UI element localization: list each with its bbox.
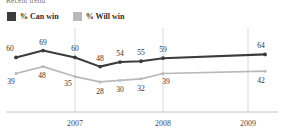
data-point[interactable] xyxy=(161,56,165,60)
data-label: 35 xyxy=(64,79,72,88)
data-point[interactable] xyxy=(119,79,122,82)
data-label: 28 xyxy=(96,87,104,96)
data-label: 54 xyxy=(116,49,124,58)
legend-swatch-will-win xyxy=(73,12,82,21)
data-point[interactable] xyxy=(264,70,267,73)
x-axis-tick-labels: 200720082009 xyxy=(0,119,281,135)
data-point[interactable] xyxy=(118,60,122,64)
data-point[interactable] xyxy=(162,72,165,75)
legend-swatch-can-win xyxy=(7,12,16,21)
data-label: 64 xyxy=(257,41,265,50)
data-point[interactable] xyxy=(263,53,267,57)
data-label: 69 xyxy=(39,38,47,47)
data-point[interactable] xyxy=(98,65,102,69)
data-point[interactable] xyxy=(41,49,45,53)
data-label: 60 xyxy=(6,44,14,53)
legend-item-will-win[interactable]: % Will win xyxy=(73,12,125,21)
data-point[interactable] xyxy=(73,56,77,60)
data-point[interactable] xyxy=(139,59,143,63)
legend-label-can-win: % Can win xyxy=(20,12,59,21)
chart-plot-area: 39483528303239426069604854555964 xyxy=(0,26,281,118)
data-label: 39 xyxy=(162,77,170,86)
data-label: 39 xyxy=(7,77,15,86)
legend-label-will-win: % Will win xyxy=(86,12,125,21)
chart-legend: % Can win % Will win xyxy=(7,10,125,22)
data-label: 32 xyxy=(137,84,145,93)
page-title: Recent trend xyxy=(6,0,45,5)
data-point[interactable] xyxy=(15,72,18,75)
data-point[interactable] xyxy=(74,75,77,78)
legend-item-can-win[interactable]: % Can win xyxy=(7,12,59,21)
data-point[interactable] xyxy=(99,80,102,83)
data-point[interactable] xyxy=(42,65,45,68)
data-label: 48 xyxy=(38,71,46,80)
chart-page: Recent trend % Can win % Will win 394835… xyxy=(0,0,281,137)
x-tick-2009: 2009 xyxy=(240,119,256,128)
data-label: 30 xyxy=(116,85,124,94)
data-label: 59 xyxy=(159,45,167,54)
data-point[interactable] xyxy=(14,56,18,60)
x-tick-2008: 2008 xyxy=(155,119,171,128)
data-label: 42 xyxy=(257,76,265,85)
data-label: 60 xyxy=(71,44,79,53)
data-label: 48 xyxy=(96,54,104,63)
data-label: 55 xyxy=(137,48,145,57)
data-point[interactable] xyxy=(140,77,143,80)
x-tick-2007: 2007 xyxy=(67,119,83,128)
line-chart-svg: 39483528303239426069604854555964 xyxy=(0,26,281,118)
